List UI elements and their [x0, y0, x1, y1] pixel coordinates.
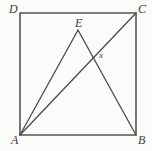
vertex-label-a: A — [11, 134, 18, 146]
geometry-figure: D C A B E x — [0, 0, 152, 151]
vertex-label-b: B — [138, 134, 145, 146]
vertex-label-c: C — [138, 3, 146, 15]
vertex-label-d: D — [9, 3, 18, 15]
vertex-label-e: E — [75, 17, 82, 29]
angle-label-x: x — [99, 51, 103, 60]
segment-eb — [78, 30, 136, 135]
